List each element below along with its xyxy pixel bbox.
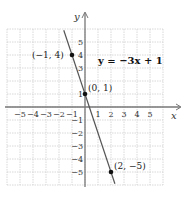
x-tick-label: −4 <box>27 110 39 119</box>
x-tick-label: 4 <box>134 110 139 119</box>
y-tick-label: −2 <box>71 129 83 138</box>
y-tick-label: 1 <box>78 90 83 99</box>
data-point-dot <box>83 92 88 97</box>
x-tick-label: 3 <box>121 110 126 119</box>
equation-label: y = −3x + 1 <box>97 55 163 66</box>
x-tick-label: 5 <box>147 110 152 119</box>
data-point-dot <box>70 53 75 58</box>
x-tick-label: −3 <box>40 110 52 119</box>
y-axis-label: y <box>73 11 80 22</box>
x-tick-label: 2 <box>108 110 113 119</box>
graph-of-linear-equation: −5−4−3−2−1123455431−1−2−3−4−5 (−1, 4)(0,… <box>0 0 186 200</box>
data-point-label: (−1, 4) <box>32 50 64 60</box>
y-tick-label: −3 <box>71 142 83 151</box>
x-tick-label: −5 <box>14 110 26 119</box>
data-point-label: (2, −5) <box>114 161 146 171</box>
y-tick-label: 5 <box>78 38 83 47</box>
y-tick-label: −1 <box>71 116 83 125</box>
y-tick-label: −4 <box>71 155 83 164</box>
x-tick-label: 1 <box>95 110 100 119</box>
y-tick-label: 3 <box>78 64 83 73</box>
x-axis-label: x <box>171 110 177 121</box>
data-point-dot <box>109 170 114 175</box>
x-tick-label: −2 <box>53 110 65 119</box>
y-tick-label: 4 <box>78 51 83 60</box>
axes <box>5 12 181 187</box>
data-point-label: (0, 1) <box>88 83 112 93</box>
y-tick-label: −5 <box>71 168 83 177</box>
